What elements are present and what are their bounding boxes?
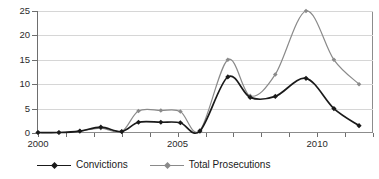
x-tick — [150, 133, 151, 137]
x-tick — [317, 133, 318, 137]
y-tick — [32, 84, 37, 85]
y-tick-label: 15 — [4, 55, 30, 65]
y-tick — [32, 11, 37, 12]
x-tick — [66, 133, 67, 137]
y-tick-label: 5 — [4, 104, 30, 114]
y-tick — [32, 133, 37, 134]
gridline — [38, 60, 373, 61]
y-tick-label: 25 — [4, 6, 30, 16]
x-tick — [94, 133, 95, 137]
x-tick — [261, 133, 262, 137]
line-chart: 0510152025 200020052010 ConvictionsTotal… — [0, 0, 379, 179]
legend-marker-diamond-icon — [164, 162, 171, 169]
x-tick — [373, 133, 374, 137]
y-tick — [32, 60, 37, 61]
y-axis-line — [37, 11, 38, 133]
y-tick-label: 20 — [4, 30, 30, 40]
y-tick-label: 0 — [4, 128, 30, 138]
x-tick-label: 2005 — [156, 139, 200, 149]
y-tick-label: 10 — [4, 79, 30, 89]
gridline — [38, 84, 373, 85]
y-axis-labels: 0510152025 — [0, 0, 30, 179]
gridline — [38, 11, 373, 12]
legend-marker-diamond-icon — [51, 162, 58, 169]
gridline — [38, 35, 373, 36]
legend-swatch — [150, 160, 184, 171]
legend-item-total-prosecutions[interactable]: Total Prosecutions — [150, 157, 271, 173]
y-tick — [32, 109, 37, 110]
chart-legend: ConvictionsTotal Prosecutions — [37, 157, 270, 173]
legend-swatch — [37, 160, 71, 171]
x-tick — [122, 133, 123, 137]
plot-area — [37, 11, 373, 133]
legend-label: Convictions — [76, 160, 128, 170]
x-tick-label: 2010 — [295, 139, 339, 149]
legend-item-convictions[interactable]: Convictions — [37, 157, 128, 173]
x-tick — [345, 133, 346, 137]
y-tick — [32, 35, 37, 36]
x-tick — [233, 133, 234, 137]
gridline — [38, 109, 373, 110]
x-tick-label: 2000 — [16, 139, 60, 149]
x-tick — [206, 133, 207, 137]
x-tick — [289, 133, 290, 137]
legend-label: Total Prosecutions — [189, 160, 271, 170]
x-tick — [38, 133, 39, 137]
x-tick — [178, 133, 179, 137]
